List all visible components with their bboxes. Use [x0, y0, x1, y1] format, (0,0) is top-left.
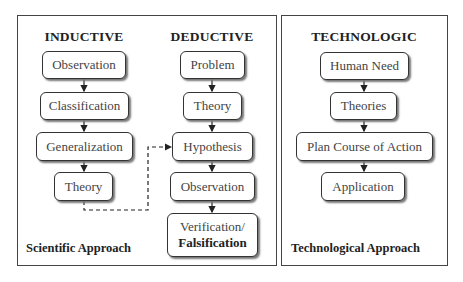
node-label: Plan Course of Action: [307, 139, 422, 155]
technologic-heading: TECHNOLOGIC: [304, 29, 424, 45]
node-label-line2: Falsification: [178, 235, 247, 251]
tech-plan-course-node: Plan Course of Action: [296, 132, 433, 161]
node-label: Application: [332, 179, 393, 195]
technological-approach-caption: Technological Approach: [291, 241, 420, 256]
tech-theories-node: Theories: [330, 92, 397, 120]
inductive-generalization-node: Generalization: [36, 132, 133, 161]
node-label: Theories: [341, 98, 386, 114]
tech-application-node: Application: [321, 172, 405, 201]
node-label: Problem: [190, 57, 234, 73]
node-label: Theory: [194, 98, 232, 114]
node-label: Observation: [181, 179, 245, 195]
node-label: Generalization: [46, 139, 123, 155]
deductive-observation-node: Observation: [170, 172, 255, 201]
node-label: Human Need: [330, 58, 399, 74]
deductive-heading: DEDUCTIVE: [162, 29, 262, 45]
inductive-classification-node: Classification: [40, 92, 129, 120]
tech-human-need-node: Human Need: [320, 52, 409, 80]
deductive-hypothesis-node: Hypothesis: [172, 132, 253, 161]
inductive-observation-node: Observation: [42, 51, 126, 79]
inductive-heading: INDUCTIVE: [34, 29, 134, 45]
deductive-theory-node: Theory: [183, 92, 242, 120]
node-label: Hypothesis: [183, 139, 242, 155]
deductive-problem-node: Problem: [180, 51, 245, 79]
node-label: Classification: [49, 98, 121, 114]
inductive-theory-node: Theory: [54, 172, 113, 201]
node-label: Theory: [65, 179, 103, 195]
node-label: Observation: [52, 57, 116, 73]
node-label-line1: Verification/: [180, 219, 245, 235]
scientific-approach-caption: Scientific Approach: [26, 241, 131, 256]
deductive-verification-falsification-node: Verification/ Falsification: [167, 213, 258, 257]
